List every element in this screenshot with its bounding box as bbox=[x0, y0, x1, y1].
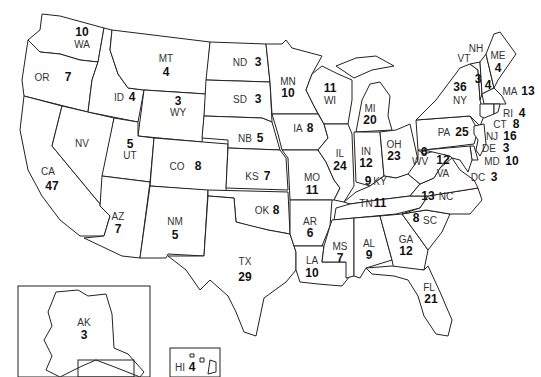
electoral-votes-MS: 7 bbox=[337, 251, 344, 265]
state-abbr-DE: DE bbox=[482, 143, 496, 154]
electoral-votes-PA: 25 bbox=[455, 125, 469, 139]
state-abbr-RI: RI bbox=[503, 108, 513, 119]
state-abbr-DC: DC bbox=[471, 172, 485, 183]
electoral-votes-AR: 6 bbox=[307, 226, 314, 240]
electoral-votes-IN: 12 bbox=[359, 156, 373, 170]
state-abbr-IL: IL bbox=[336, 148, 345, 159]
state-abbr-UT: UT bbox=[123, 150, 136, 161]
electoral-votes-MN: 10 bbox=[281, 86, 295, 100]
state-abbr-KY: KY bbox=[373, 176, 387, 187]
electoral-votes-ID: 4 bbox=[129, 90, 136, 104]
state-abbr-PA: PA bbox=[438, 127, 451, 138]
electoral-votes-MO: 11 bbox=[306, 183, 319, 197]
electoral-votes-WV: 6 bbox=[421, 145, 428, 159]
electoral-votes-GA: 12 bbox=[399, 244, 413, 258]
state-abbr-HI: HI bbox=[175, 362, 185, 373]
electoral-votes-IA: 8 bbox=[307, 121, 314, 135]
state-abbr-SD: SD bbox=[233, 94, 247, 105]
state-abbr-ID: ID bbox=[114, 92, 124, 103]
electoral-votes-NC: 13 bbox=[421, 189, 435, 203]
state-abbr-ND: ND bbox=[233, 57, 247, 68]
electoral-votes-VA: 12 bbox=[436, 153, 450, 167]
electoral-votes-MA: 13 bbox=[521, 84, 535, 98]
electoral-votes-FL: 21 bbox=[424, 292, 438, 306]
electoral-votes-AL: 9 bbox=[366, 248, 373, 262]
electoral-votes-TX: 29 bbox=[238, 270, 252, 284]
state-abbr-TN: TN bbox=[359, 198, 372, 209]
electoral-votes-AK: 3 bbox=[81, 328, 88, 342]
state-AK bbox=[44, 290, 144, 377]
electoral-votes-NB: 5 bbox=[257, 131, 264, 145]
electoral-votes-MI: 20 bbox=[363, 113, 377, 127]
state-abbr-MD: MD bbox=[484, 156, 500, 167]
electoral-votes-AZ: 7 bbox=[115, 222, 122, 236]
state-abbr-OK: OK bbox=[255, 205, 270, 216]
state-abbr-ME: ME bbox=[491, 50, 506, 61]
electoral-votes-CA: 47 bbox=[45, 179, 59, 193]
state-abbr-LA: LA bbox=[306, 255, 319, 266]
state-KS bbox=[226, 148, 288, 190]
state-abbr-NH: NH bbox=[469, 43, 483, 54]
electoral-votes-RI: 4 bbox=[519, 106, 526, 120]
state-abbr-WA: WA bbox=[74, 39, 90, 50]
electoral-votes-KY: 9 bbox=[365, 174, 372, 188]
electoral-votes-ME: 4 bbox=[495, 61, 502, 75]
electoral-votes-HI: 4 bbox=[189, 360, 196, 374]
state-abbr-WY: WY bbox=[170, 107, 186, 118]
electoral-votes-OR: 7 bbox=[65, 70, 72, 84]
state-abbr-AK: AK bbox=[77, 317, 91, 328]
electoral-votes-OK: 8 bbox=[273, 203, 280, 217]
electoral-votes-LA: 10 bbox=[305, 266, 319, 280]
electoral-votes-NH: 4 bbox=[485, 78, 492, 92]
state-abbr-AZ: AZ bbox=[112, 211, 125, 222]
state-abbr-MA: MA bbox=[503, 86, 518, 97]
electoral-votes-WI: 11 bbox=[324, 81, 337, 95]
state-abbr-MO: MO bbox=[304, 172, 320, 183]
state-abbr-SC: SC bbox=[423, 215, 437, 226]
electoral-votes-UT: 5 bbox=[127, 137, 134, 151]
electoral-votes-SC: 8 bbox=[413, 211, 420, 225]
state-abbr-NV: NV bbox=[75, 138, 89, 149]
electoral-votes-KS: 7 bbox=[264, 169, 271, 183]
electoral-votes-SD: 3 bbox=[255, 92, 262, 106]
state-abbr-NM: NM bbox=[167, 216, 183, 227]
electoral-votes-WY: 3 bbox=[175, 94, 182, 108]
state-abbr-VA: VA bbox=[437, 168, 450, 179]
electoral-votes-MT: 4 bbox=[163, 65, 170, 79]
us-electoral-map: WA10OR7CA47ID4NVMT4WY3UT5CO8AZ7NM5ND3SD3… bbox=[0, 0, 541, 377]
state-abbr-NJ: NJ bbox=[486, 131, 498, 142]
electoral-votes-TN: 11 bbox=[374, 196, 387, 210]
electoral-votes-IL: 24 bbox=[333, 159, 347, 173]
electoral-votes-NY: 36 bbox=[453, 80, 467, 94]
state-abbr-VT: VT bbox=[458, 53, 471, 64]
electoral-votes-WA: 10 bbox=[75, 25, 89, 39]
state-abbr-NY: NY bbox=[453, 95, 467, 106]
electoral-votes-CO: 8 bbox=[195, 159, 202, 173]
state-abbr-KS: KS bbox=[245, 171, 259, 182]
electoral-votes-DC: 3 bbox=[491, 170, 498, 184]
state-RI bbox=[494, 104, 500, 114]
state-abbr-TX: TX bbox=[239, 256, 252, 267]
state-abbr-OR: OR bbox=[35, 72, 50, 83]
electoral-votes-DE: 3 bbox=[503, 141, 510, 155]
state-abbr-WI: WI bbox=[324, 95, 336, 106]
state-abbr-MT: MT bbox=[159, 53, 173, 64]
state-CT bbox=[480, 104, 494, 118]
electoral-votes-ND: 3 bbox=[255, 55, 262, 69]
state-CO bbox=[150, 138, 228, 192]
state-abbr-NB: NB bbox=[238, 133, 252, 144]
state-abbr-CA: CA bbox=[41, 166, 55, 177]
electoral-votes-NM: 5 bbox=[172, 228, 179, 242]
electoral-votes-OH: 23 bbox=[387, 149, 401, 163]
state-abbr-CO: CO bbox=[170, 161, 185, 172]
state-abbr-NC: NC bbox=[439, 191, 453, 202]
state-FL bbox=[366, 266, 452, 336]
state-abbr-IA: IA bbox=[293, 123, 303, 134]
electoral-votes-MD: 10 bbox=[505, 154, 519, 168]
electoral-votes-VT: 3 bbox=[475, 72, 482, 86]
